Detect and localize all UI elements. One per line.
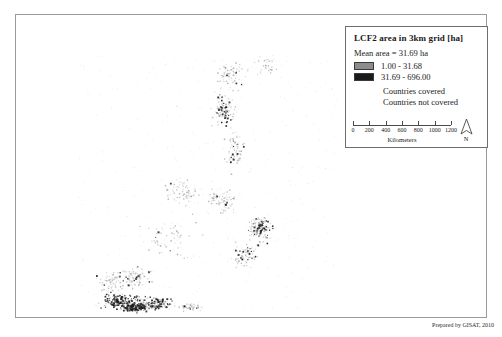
grid-cell xyxy=(284,172,285,173)
grid-cell xyxy=(137,300,138,301)
grid-cell xyxy=(106,272,107,273)
grid-cell xyxy=(232,90,233,91)
grid-cell xyxy=(256,234,257,235)
grid-cell xyxy=(209,194,210,195)
grid-cell xyxy=(153,67,154,68)
grid-cell xyxy=(212,117,213,118)
grid-cell xyxy=(124,278,125,279)
grid-cell xyxy=(259,233,261,235)
grid-cell xyxy=(243,249,244,250)
grid-cell xyxy=(324,261,325,262)
grid-cell xyxy=(162,180,163,181)
grid-cell xyxy=(129,295,130,296)
grid-cell xyxy=(107,280,108,281)
grid-cell xyxy=(188,299,189,300)
grid-cell xyxy=(188,308,189,309)
grid-cell xyxy=(132,287,133,288)
grid-cell xyxy=(257,308,258,309)
grid-cell xyxy=(262,237,263,238)
grid-cell xyxy=(112,299,113,300)
grid-cell xyxy=(272,55,273,56)
grid-cell xyxy=(240,151,242,153)
grid-cell xyxy=(173,227,174,228)
grid-cell xyxy=(307,117,308,118)
grid-cell xyxy=(226,122,227,123)
grid-cell xyxy=(95,305,96,306)
grid-cell xyxy=(222,77,223,78)
grid-cell xyxy=(139,281,140,282)
grid-cell xyxy=(159,299,160,300)
grid-cell xyxy=(129,129,130,130)
grid-cell xyxy=(263,236,264,237)
grid-cell xyxy=(291,221,292,222)
grid-cell xyxy=(218,109,219,110)
grid-cell xyxy=(217,121,218,122)
grid-cell xyxy=(177,241,178,242)
grid-cell xyxy=(157,300,158,301)
grid-cell xyxy=(231,199,232,200)
grid-cell xyxy=(79,158,80,159)
grid-cell xyxy=(251,248,252,249)
grid-cell xyxy=(298,94,299,95)
grid-cell xyxy=(224,108,225,109)
grid-cell xyxy=(205,75,206,76)
grid-cell xyxy=(260,230,262,232)
grid-cell xyxy=(213,242,214,243)
grid-cell xyxy=(251,223,252,224)
grid-cell xyxy=(230,88,231,89)
grid-cell xyxy=(223,200,224,201)
grid-cell xyxy=(269,132,270,133)
grid-cell xyxy=(232,82,233,83)
north-arrow: N xyxy=(455,118,477,143)
grid-cell xyxy=(255,226,256,227)
grid-cell xyxy=(138,304,139,305)
grid-cell xyxy=(225,68,226,69)
grid-cell xyxy=(138,307,139,308)
grid-cell xyxy=(151,303,152,304)
grid-cell xyxy=(170,250,171,251)
grid-cell xyxy=(108,286,109,287)
grid-cell xyxy=(234,196,235,197)
grid-cell xyxy=(186,195,187,196)
grid-cell xyxy=(239,64,240,65)
grid-cell xyxy=(265,237,266,238)
grid-cell xyxy=(300,199,301,200)
grid-cell xyxy=(292,167,293,168)
grid-cell xyxy=(122,288,123,289)
grid-cell xyxy=(131,273,132,274)
grid-cell xyxy=(182,184,183,185)
grid-cell xyxy=(233,250,234,251)
grid-cell xyxy=(268,65,269,66)
grid-cell xyxy=(214,194,215,195)
grid-cell xyxy=(109,300,110,301)
grid-cell xyxy=(228,90,229,91)
grid-cell xyxy=(203,83,204,84)
grid-cell xyxy=(222,212,223,213)
grid-cell xyxy=(233,209,234,210)
grid-cell xyxy=(118,301,119,302)
grid-cell xyxy=(95,165,96,166)
grid-cell xyxy=(110,292,111,293)
grid-cell xyxy=(293,67,294,68)
grid-cell xyxy=(161,303,163,305)
grid-cell xyxy=(101,290,102,291)
grid-cell xyxy=(318,131,319,132)
grid-cell xyxy=(131,274,132,275)
grid-cell xyxy=(106,306,107,307)
grid-cell xyxy=(239,136,240,137)
grid-cell xyxy=(261,227,263,229)
grid-cell xyxy=(90,212,91,213)
grid-cell xyxy=(222,115,223,116)
grid-cell xyxy=(235,72,236,73)
grid-cell xyxy=(110,298,111,299)
grid-cell xyxy=(263,65,264,66)
grid-cell xyxy=(91,117,92,118)
grid-cell xyxy=(215,196,216,197)
grid-cell xyxy=(229,159,230,160)
grid-cell xyxy=(140,245,141,246)
grid-cell xyxy=(260,84,261,85)
grid-cell xyxy=(177,254,178,255)
grid-cell xyxy=(314,156,315,157)
grid-cell xyxy=(89,169,90,170)
grid-cell xyxy=(257,219,259,221)
